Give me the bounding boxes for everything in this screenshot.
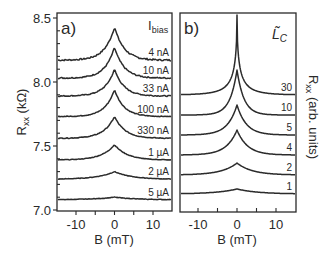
panel-a-y-ticks: 7.07.58.08.5 [33, 11, 60, 218]
ylabel-unit: (kΩ) [14, 89, 29, 118]
x-tick-label: -10 [189, 217, 208, 232]
panel-a: 7.07.58.08.5 -10010 4 nA10 nA33 nA100 nA… [14, 11, 172, 248]
series-label: 100 nA [137, 104, 169, 115]
x-tick-label: 0 [233, 217, 240, 232]
series-label: 2 [286, 162, 292, 173]
panel-b-label: b) [184, 19, 199, 38]
data-curve [181, 130, 295, 155]
series-label: 4 nA [148, 47, 169, 58]
x-tick-label: 10 [269, 217, 283, 232]
series-label: 1 µA [148, 147, 169, 158]
x-tick-label: 0 [111, 217, 118, 232]
y-tick-label: 8.5 [33, 11, 51, 26]
legend-title-sub: bias [152, 25, 169, 35]
series-label: 33 nA [143, 83, 169, 94]
series-label: 1 [286, 181, 292, 192]
x-tick-label: -10 [67, 217, 86, 232]
series-label: 5 [286, 122, 292, 133]
x-tick-label: 10 [146, 217, 160, 232]
panel-b-ylabel: Rxx (arb. units) [304, 75, 321, 159]
data-curve [181, 189, 295, 194]
panel-a-label: a) [61, 19, 76, 38]
series-label: 5 µA [148, 187, 169, 198]
series-label: 2 µA [148, 166, 169, 177]
panel-b-xlabel: B (mT) [217, 232, 257, 247]
series-label: 30 [281, 82, 293, 93]
panel-a-xlabel: B (mT) [94, 232, 134, 247]
panel-a-series-labels: 4 nA10 nA33 nA100 nA330 nA1 µA2 µA5 µA [137, 47, 169, 198]
series-label: 10 nA [143, 65, 169, 76]
panel-a-x-ticks: -10010 [67, 211, 161, 232]
panel-a-ylabel: Rxx (kΩ) [14, 89, 31, 136]
ylabel-main: R [306, 75, 321, 84]
series-label: 330 nA [137, 125, 169, 136]
panel-b: -10010 30105421 b) L̃C B (mT) Rxx (arb. … [180, 13, 321, 247]
panel-b-legend-title: L̃C [272, 26, 288, 44]
panel-a-legend-title: Ibias [148, 18, 169, 35]
panel-b-series-labels: 30105421 [281, 82, 293, 192]
figure: 7.07.58.08.5 -10010 4 nA10 nA33 nA100 nA… [0, 0, 332, 258]
ylabel-main: R [14, 126, 29, 135]
series-label: 4 [286, 142, 292, 153]
data-curve [181, 105, 295, 135]
ylabel-unit: (arb. units) [306, 93, 321, 159]
series-label: 10 [281, 102, 293, 113]
y-tick-label: 8.0 [33, 75, 51, 90]
legend-title-sub: C [280, 33, 288, 44]
data-curve [181, 163, 295, 175]
y-tick-label: 7.0 [33, 203, 51, 218]
y-tick-label: 7.5 [33, 139, 51, 154]
